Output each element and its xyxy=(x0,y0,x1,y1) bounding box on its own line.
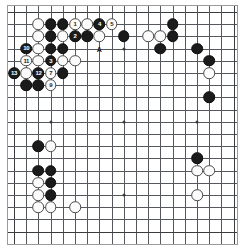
stone-black[interactable] xyxy=(191,43,203,55)
stone-black[interactable] xyxy=(81,31,93,43)
stone-black[interactable] xyxy=(20,79,32,91)
stone-black[interactable] xyxy=(45,165,57,177)
stone-black[interactable] xyxy=(203,92,215,104)
stone-white[interactable] xyxy=(57,31,69,43)
stone-white[interactable] xyxy=(203,67,215,79)
stone-black[interactable] xyxy=(155,43,167,55)
move-stone-white-11[interactable]: 11 xyxy=(20,55,32,67)
stone-white[interactable] xyxy=(94,31,106,43)
move-stone-white-7[interactable]: 7 xyxy=(45,67,57,79)
move-stone-white-5[interactable]: 5 xyxy=(106,18,118,30)
move-number-label: 13 xyxy=(11,70,17,76)
stone-black[interactable] xyxy=(33,140,45,152)
stone-black[interactable] xyxy=(118,31,130,43)
board-marker-a: A xyxy=(97,45,102,52)
stone-white[interactable] xyxy=(69,55,81,67)
move-number-label: 2 xyxy=(74,33,77,39)
move-stone-white-1[interactable]: 1 xyxy=(69,18,81,30)
move-number-label: 11 xyxy=(23,58,29,64)
move-number-label: 12 xyxy=(35,70,41,76)
stone-white[interactable] xyxy=(191,189,203,201)
move-number-label: 7 xyxy=(49,70,52,76)
move-stone-black-13[interactable]: 13 xyxy=(8,67,20,79)
stone-white[interactable] xyxy=(155,31,167,43)
stone-black[interactable] xyxy=(33,79,45,91)
stone-black[interactable] xyxy=(45,177,57,189)
stone-black[interactable] xyxy=(167,18,179,30)
stone-white[interactable] xyxy=(57,55,69,67)
stone-white[interactable] xyxy=(45,140,57,152)
stone-white[interactable] xyxy=(33,18,45,30)
stone-white[interactable] xyxy=(69,201,81,213)
go-diagram-container: 145210113131279A xyxy=(0,0,245,250)
move-number-label: 5 xyxy=(110,21,113,27)
stone-white[interactable] xyxy=(33,31,45,43)
stone-black[interactable] xyxy=(191,153,203,165)
stone-white[interactable] xyxy=(81,18,93,30)
move-number-label: 3 xyxy=(49,58,52,64)
stone-black[interactable] xyxy=(57,67,69,79)
move-number-label: 9 xyxy=(49,82,52,88)
move-number-label: 10 xyxy=(23,46,29,52)
stone-white[interactable] xyxy=(20,67,32,79)
stone-black[interactable] xyxy=(167,31,179,43)
move-stone-black-4[interactable]: 4 xyxy=(94,18,106,30)
move-stone-black-12[interactable]: 12 xyxy=(33,67,45,79)
stone-black[interactable] xyxy=(33,165,45,177)
stone-white[interactable] xyxy=(33,43,45,55)
move-stone-black-10[interactable]: 10 xyxy=(20,43,32,55)
stones-layer: 145210113131279A xyxy=(8,6,237,244)
stone-white[interactable] xyxy=(142,31,154,43)
stone-white[interactable] xyxy=(45,201,57,213)
move-stone-white-9[interactable]: 9 xyxy=(45,79,57,91)
stone-white[interactable] xyxy=(203,165,215,177)
stone-black[interactable] xyxy=(45,189,57,201)
stone-black[interactable] xyxy=(45,43,57,55)
stone-black[interactable] xyxy=(45,31,57,43)
move-stone-black-2[interactable]: 2 xyxy=(69,31,81,43)
move-number-label: 4 xyxy=(98,21,101,27)
stone-white[interactable] xyxy=(191,165,203,177)
stone-white[interactable] xyxy=(33,189,45,201)
stone-white[interactable] xyxy=(33,201,45,213)
stone-black[interactable] xyxy=(203,55,215,67)
stone-black[interactable] xyxy=(57,18,69,30)
stone-white[interactable] xyxy=(33,177,45,189)
stone-black[interactable] xyxy=(45,18,57,30)
stone-white[interactable] xyxy=(33,55,45,67)
move-stone-black-3[interactable]: 3 xyxy=(45,55,57,67)
go-board[interactable]: 145210113131279A xyxy=(7,5,238,245)
stone-black[interactable] xyxy=(57,43,69,55)
move-number-label: 1 xyxy=(74,21,77,27)
